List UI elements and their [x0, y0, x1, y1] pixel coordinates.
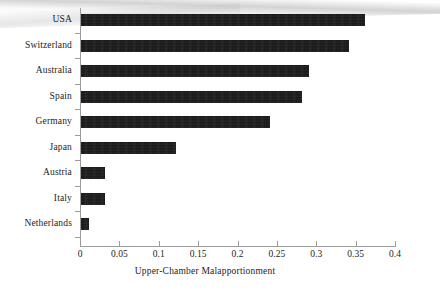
x-axis-tick — [316, 241, 317, 247]
y-axis-tick — [75, 58, 80, 59]
y-axis-tick — [75, 160, 80, 161]
x-axis-tick — [395, 241, 396, 247]
x-axis-tick — [356, 241, 357, 247]
bar-austria — [81, 167, 105, 179]
y-axis-label-switzerland: Switzerland — [0, 40, 72, 51]
y-axis-label-japan: Japan — [0, 142, 72, 153]
y-axis-tick — [75, 109, 80, 110]
y-axis-label-germany: Germany — [0, 116, 72, 127]
y-axis-label-netherlands: Netherlands — [0, 218, 72, 229]
x-axis-tick-label: 0.1 — [139, 249, 179, 260]
x-axis-tick-label: 0.25 — [257, 249, 297, 260]
x-axis-tick-label: 0.3 — [296, 249, 336, 260]
y-axis-label-australia: Australia — [0, 65, 72, 76]
y-axis-label-austria: Austria — [0, 167, 72, 178]
y-axis-tick — [75, 211, 80, 212]
y-axis-tick — [75, 135, 80, 136]
bar-spain — [81, 91, 302, 103]
bar-germany — [81, 116, 270, 128]
x-axis-tick-label: 0.15 — [178, 249, 218, 260]
bar-switzerland — [81, 40, 349, 52]
x-axis-tick-label: 0.2 — [218, 249, 258, 260]
bar-italy — [81, 193, 105, 205]
x-axis-tick — [238, 241, 239, 247]
x-axis-tick-label: 0.35 — [336, 249, 376, 260]
x-axis-title: Upper-Chamber Malapportionment — [0, 266, 410, 276]
y-axis-tick — [75, 84, 80, 85]
y-axis-label-usa: USA — [0, 14, 72, 25]
x-axis-tick-label: 0.05 — [99, 249, 139, 260]
bar-japan — [81, 142, 176, 154]
bar-usa — [81, 14, 365, 26]
bar-australia — [81, 65, 309, 77]
x-axis-tick — [159, 241, 160, 247]
y-axis-tick — [75, 237, 80, 238]
y-axis-label-spain: Spain — [0, 91, 72, 102]
y-axis-label-italy: Italy — [0, 193, 72, 204]
y-axis-tick — [75, 186, 80, 187]
x-axis-tick-label: 0.4 — [375, 249, 415, 260]
x-axis-tick — [119, 241, 120, 247]
bar-netherlands — [81, 218, 89, 230]
x-axis-tick — [198, 241, 199, 247]
x-axis-tick-label: 0 — [60, 249, 100, 260]
x-axis-tick — [80, 241, 81, 247]
x-axis-tick — [277, 241, 278, 247]
y-axis-tick — [75, 33, 80, 34]
